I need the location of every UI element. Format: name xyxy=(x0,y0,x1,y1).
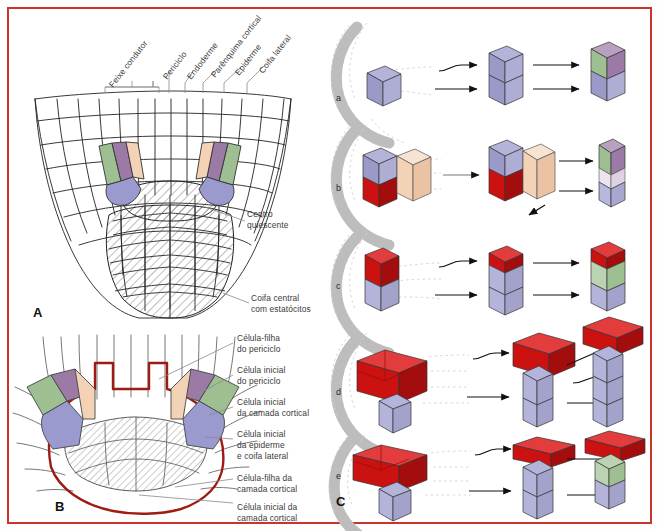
callout-celula-inicial-epiderme-l3: e coifa lateral xyxy=(237,451,288,462)
row-label-d: d xyxy=(336,387,341,397)
row-b-stage1-cell xyxy=(363,148,431,207)
callout-celula-inicial-periciclo-l2: do periciclo xyxy=(237,376,281,387)
callout-celula-inicial-cortical2-l2: camada cortical xyxy=(237,513,297,524)
row-c-stage1-cell xyxy=(365,248,399,311)
row-c-graphics xyxy=(331,233,625,353)
initial-cells-left xyxy=(99,142,144,205)
figure-frame: Feixe condutor Periciclo Endoderme Parên… xyxy=(7,7,652,524)
callout-centro-quiescente-line1: Centro xyxy=(247,209,273,220)
row-b-stage3-cell xyxy=(599,139,625,207)
row-label-b: b xyxy=(336,183,341,193)
callout-centro-quiescente-line2: quiescente xyxy=(247,220,289,231)
row-d-stage3-cell xyxy=(583,317,643,427)
row-d-stage1-cell xyxy=(357,350,427,433)
row-label-c: c xyxy=(336,281,341,291)
row-a-stage1-cell xyxy=(367,66,401,106)
row-e-stage1-cell xyxy=(353,445,427,521)
row-a-stage2-cell xyxy=(489,46,523,105)
row-a-graphics xyxy=(331,23,625,143)
panel-b-letter: B xyxy=(55,499,64,514)
callout-celula-inicial-cortical-l1: Célula inicial xyxy=(237,397,285,408)
callout-celula-inicial-epiderme-l2: da epiderme xyxy=(237,440,285,451)
callout-coifa-central-line2: com estatócitos xyxy=(251,304,311,315)
columella-region xyxy=(106,205,233,318)
figure-root: Feixe condutor Periciclo Endoderme Parên… xyxy=(0,0,659,531)
panel-b-drawing xyxy=(9,327,339,527)
callout-celula-inicial-epiderme-l1: Célula inicial xyxy=(237,429,285,440)
panel-a-letter: A xyxy=(33,305,42,320)
row-label-e: e xyxy=(336,471,341,481)
row-d-stage2-cell xyxy=(513,333,575,427)
row-a-stage3-cell xyxy=(591,42,625,101)
row-e-stage2-cell xyxy=(513,437,575,519)
initial-cells-right xyxy=(196,142,241,205)
row-d-graphics xyxy=(331,317,643,455)
callout-celula-inicial-cortical2-l1: Célula inicial da xyxy=(237,502,297,513)
callout-celula-filha-cortical-l1: Célula-filha da xyxy=(237,473,292,484)
callout-celula-filha-cortical-l2: camada cortical xyxy=(237,484,297,495)
panel-c-drawing xyxy=(327,9,654,526)
panel-c: a b c d e C xyxy=(327,9,654,526)
panel-b: Célula-filha do periciclo Célula inicial… xyxy=(9,327,339,527)
callout-celula-filha-periciclo-l2: do periciclo xyxy=(237,344,281,355)
row-label-a: a xyxy=(336,93,341,103)
panel-c-letter: C xyxy=(336,494,345,509)
row-e-stage3-cell xyxy=(585,431,645,509)
row-b-stage2-cell xyxy=(489,140,555,215)
callout-coifa-central-line1: Coifa central xyxy=(251,293,299,304)
row-c-stage3-cell xyxy=(591,242,625,311)
callout-celula-filha-periciclo-l1: Célula-filha xyxy=(237,333,280,344)
callout-celula-inicial-cortical-l2: da camada cortical xyxy=(237,408,309,419)
panel-a: Feixe condutor Periciclo Endoderme Parên… xyxy=(9,9,339,329)
row-c-stage2-cell xyxy=(489,246,523,315)
callout-celula-inicial-periciclo-l1: Célula inicial xyxy=(237,365,285,376)
